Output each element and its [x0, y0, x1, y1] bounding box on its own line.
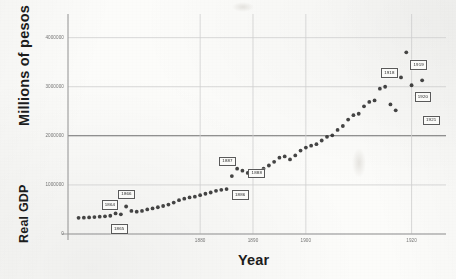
data-point — [188, 196, 192, 200]
data-point — [315, 142, 319, 146]
data-point — [404, 50, 408, 54]
annotation-callout-1866: 1866 — [118, 190, 135, 200]
data-point — [352, 113, 356, 117]
data-point — [93, 215, 97, 219]
data-point — [373, 99, 377, 103]
data-point — [161, 204, 165, 208]
annotation-callout-1920: 1920 — [415, 92, 432, 102]
data-point — [135, 210, 139, 214]
data-point — [219, 188, 223, 192]
data-point — [140, 209, 144, 213]
data-point — [383, 85, 387, 89]
data-point — [172, 201, 176, 205]
data-point — [198, 193, 202, 197]
x-axis-tick-label: 1880 — [180, 238, 220, 243]
data-point — [108, 214, 112, 218]
data-point — [325, 135, 329, 139]
annotation-callout-1864: 1864 — [102, 200, 119, 210]
annotation-callout-1921: 1921 — [423, 116, 440, 126]
data-point — [103, 214, 107, 218]
data-point — [156, 205, 160, 209]
data-point — [399, 76, 403, 80]
data-point — [299, 149, 303, 153]
annotation-callout-1886: 1886 — [232, 190, 249, 200]
annotation-callout-1888: 1888 — [248, 169, 265, 179]
data-point — [278, 156, 282, 160]
y-axis-tick-label: 2000000 — [22, 133, 64, 138]
x-axis-tick-label: 1890 — [233, 238, 273, 243]
data-point — [130, 209, 134, 213]
data-point — [235, 167, 239, 171]
data-point — [98, 215, 102, 219]
y-axis-title-units: Millions of pesos — [16, 5, 32, 126]
data-point — [182, 197, 186, 201]
annotation-callout-1887: 1887 — [219, 157, 236, 167]
data-point — [346, 118, 350, 122]
data-point — [336, 128, 340, 132]
data-point — [367, 100, 371, 104]
data-point — [309, 144, 313, 148]
x-axis-title: Year — [238, 252, 269, 268]
data-point — [288, 157, 292, 161]
plot-area — [0, 0, 456, 279]
data-point — [151, 207, 155, 211]
data-point — [204, 192, 208, 196]
data-point — [124, 205, 128, 209]
data-point — [209, 191, 213, 195]
data-point — [77, 216, 81, 220]
data-point — [304, 146, 308, 150]
annotation-callout-1919: 1919 — [410, 60, 427, 70]
data-point — [341, 124, 345, 128]
data-point — [225, 187, 229, 191]
y-axis-title-series: Real GDP — [17, 184, 31, 243]
data-point — [320, 139, 324, 143]
data-point — [82, 216, 86, 220]
data-point — [114, 211, 118, 215]
data-point — [267, 164, 271, 168]
data-point — [241, 169, 245, 173]
data-point — [378, 87, 382, 91]
x-axis-tick-label: 1920 — [392, 238, 432, 243]
data-point — [394, 108, 398, 112]
data-point — [293, 154, 297, 158]
data-point — [357, 112, 361, 116]
x-axis-tick-label: 1900 — [286, 238, 326, 243]
data-point — [167, 203, 171, 207]
data-point — [87, 216, 91, 220]
data-point — [420, 78, 424, 82]
annotation-callout-1865: 1865 — [111, 224, 128, 234]
data-point — [389, 103, 393, 107]
data-point — [214, 189, 218, 193]
data-point — [272, 160, 276, 164]
data-point — [145, 208, 149, 212]
data-point — [410, 83, 414, 87]
data-point — [283, 155, 287, 159]
data-point — [119, 212, 123, 216]
data-point — [177, 198, 181, 202]
scatter-chart: 01000000200000030000004000000 1880189019… — [0, 0, 456, 279]
annotation-callout-1918: 1918 — [381, 68, 398, 78]
data-point — [230, 174, 234, 178]
data-point — [193, 195, 197, 199]
data-point — [362, 104, 366, 108]
data-point — [330, 133, 334, 137]
